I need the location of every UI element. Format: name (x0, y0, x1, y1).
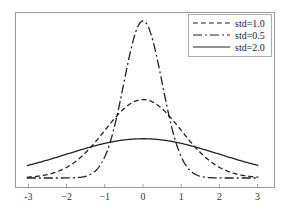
x-tick-label: −2 (61, 191, 72, 202)
x-tick-label: 2 (217, 191, 222, 202)
legend-label: std=1.0 (235, 18, 265, 29)
x-tick-label: 0 (141, 191, 146, 202)
legend: std=1.0 std=0.5 std=2.0 (189, 15, 272, 57)
x-tick-label: −1 (99, 191, 110, 202)
chart: -3−2−10123 std=1.0 std=0.5 std=2.0 (0, 0, 286, 217)
x-tick-label: 3 (255, 191, 260, 202)
legend-label: std=0.5 (235, 30, 265, 41)
x-tick-label: 1 (179, 191, 184, 202)
x-tick-label: -3 (24, 191, 32, 202)
legend-label: std=2.0 (235, 42, 265, 53)
